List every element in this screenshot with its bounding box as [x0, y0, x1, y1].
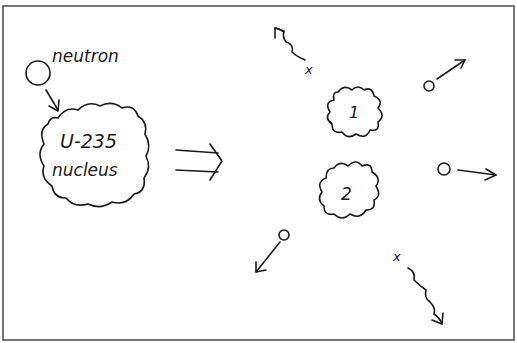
- gamma-label: x: [304, 62, 313, 77]
- fragment-label: 1: [349, 103, 359, 122]
- neutron-label: neutron: [52, 46, 119, 66]
- fragment-label: 2: [341, 184, 352, 204]
- nucleus-label-line1: U-235: [60, 130, 117, 152]
- nucleus-label-line2: nucleus: [52, 160, 118, 180]
- gamma-label: x: [392, 249, 401, 264]
- fission-diagram: neutron U-235 nucleus 1 2: [0, 0, 517, 343]
